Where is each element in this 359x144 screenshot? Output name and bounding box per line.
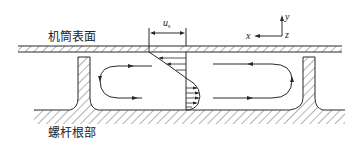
left-screw-flight	[34, 57, 98, 124]
barrel-wall	[18, 46, 342, 52]
screw-channel-flow-diagram: 机筒表面 us y x z 螺杆根部	[0, 0, 359, 144]
left-recirculation-loop	[98, 64, 152, 100]
axis-y-label: y	[284, 11, 290, 22]
axis-x-label: x	[245, 30, 251, 41]
velocity-profile	[149, 52, 200, 110]
right-recirculation-loop	[213, 62, 294, 100]
screw-root	[98, 110, 290, 124]
right-screw-flight	[290, 57, 345, 124]
barrel-surface-label: 机筒表面	[48, 29, 96, 44]
velocity-label: us	[163, 17, 171, 29]
screw-root-label: 螺杆根部	[48, 125, 96, 140]
coordinate-axes	[254, 15, 284, 38]
axis-z-label: z	[284, 29, 289, 40]
